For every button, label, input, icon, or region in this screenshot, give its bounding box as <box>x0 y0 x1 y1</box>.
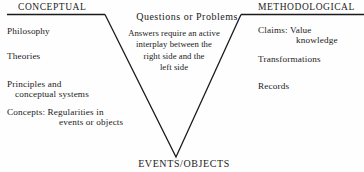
item-line-secondary: events or objects <box>7 117 157 127</box>
item-line-secondary: conceptual systems <box>7 89 157 99</box>
list-item: Concepts: Regularities in events or obje… <box>7 107 157 127</box>
item-line-primary: Theories <box>7 51 40 61</box>
focus-question-heading: Questions or Problems <box>0 11 364 23</box>
list-item: Theories <box>7 51 157 61</box>
item-line-primary: Concepts: Regularities in <box>7 107 104 117</box>
conceptual-items-list: Philosophy Theories Principles and conce… <box>7 26 157 135</box>
list-item: Philosophy <box>7 26 157 36</box>
list-item: Claims: Value knowledge <box>258 25 364 45</box>
item-line-primary: Principles and <box>7 79 61 89</box>
events-objects-label: EVENTS/OBJECTS <box>0 158 364 170</box>
list-item: Records <box>258 81 364 91</box>
list-item: Principles and conceptual systems <box>7 79 157 99</box>
item-line-secondary: knowledge <box>258 35 364 45</box>
item-line-primary: Records <box>258 81 289 91</box>
item-line-primary: Philosophy <box>7 26 50 36</box>
methodological-items-list: Claims: Value knowledge Transformations … <box>258 25 364 100</box>
item-line-primary: Transformations <box>258 54 321 64</box>
item-line-primary: Claims: Value <box>258 25 312 35</box>
gowin-vee-diagram: CONCEPTUAL METHODOLOGICAL Questions or P… <box>0 0 364 172</box>
list-item: Transformations <box>258 54 364 64</box>
